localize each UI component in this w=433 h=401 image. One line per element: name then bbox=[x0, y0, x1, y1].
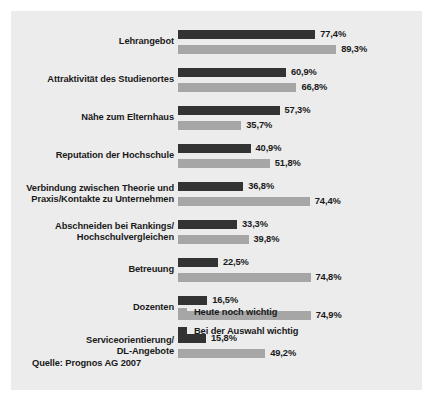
bar-rect bbox=[178, 182, 243, 191]
category-label: Verbindung zwischen Theorie und Praxis/K… bbox=[11, 183, 174, 205]
legend-item[interactable]: Heute noch wichtig bbox=[178, 304, 298, 320]
bar-rect bbox=[178, 45, 336, 54]
bar-pair: 33,3%39,8% bbox=[178, 213, 422, 251]
bar-value-label: 74,9% bbox=[316, 310, 342, 321]
bar-group: Verbindung zwischen Theorie und Praxis/K… bbox=[11, 175, 422, 213]
bar-rect bbox=[178, 144, 251, 153]
bar-pair: 77,4%89,3% bbox=[178, 23, 422, 61]
bar-value-label: 57,3% bbox=[285, 105, 311, 116]
bar-pair: 36,8%74,4% bbox=[178, 175, 422, 213]
chart-source-note: Quelle: Prognos AG 2007 bbox=[32, 358, 141, 368]
bar-value-label: 66,8% bbox=[301, 82, 327, 93]
bar-pair: 22,5%74,8% bbox=[178, 251, 422, 289]
category-label: Attraktivität des Studienortes bbox=[11, 74, 174, 85]
bar-group: Reputation der Hochschule40,9%51,8% bbox=[11, 137, 422, 175]
category-label: Abschneiden bei Rankings/ Hochschulvergl… bbox=[11, 221, 174, 243]
bar-pair: 60,9%66,8% bbox=[178, 61, 422, 99]
legend-item[interactable]: Bei der Auswahl wichtig bbox=[178, 323, 298, 339]
bar-value-label: 49,2% bbox=[270, 348, 296, 359]
bar-value-label: 39,8% bbox=[254, 234, 280, 245]
bar-rect bbox=[178, 258, 218, 267]
bar-value-label: 51,8% bbox=[275, 158, 301, 169]
legend-swatch-icon bbox=[178, 327, 187, 336]
category-label: Dozenten bbox=[11, 302, 174, 313]
bar-value-label: 33,3% bbox=[242, 219, 268, 230]
bar-pair: 40,9%51,8% bbox=[178, 137, 422, 175]
bar-rect bbox=[178, 197, 310, 206]
bar-value-label: 77,4% bbox=[320, 29, 346, 40]
category-label: Betreuung bbox=[11, 264, 174, 275]
bar-group: Lehrangebot77,4%89,3% bbox=[11, 23, 422, 61]
bar-value-label: 74,4% bbox=[315, 196, 341, 207]
bar-rect bbox=[178, 106, 280, 115]
chart-legend: Heute noch wichtigBei der Auswahl wichti… bbox=[178, 304, 298, 342]
bar-rect bbox=[178, 121, 241, 130]
bar-group: Nähe zum Elternhaus57,3%35,7% bbox=[11, 99, 422, 137]
category-label: Lehrangebot bbox=[11, 36, 174, 47]
chart-panel: Lehrangebot77,4%89,3%Attraktivität des S… bbox=[11, 11, 422, 390]
bar-pair: 57,3%35,7% bbox=[178, 99, 422, 137]
bar-value-label: 35,7% bbox=[246, 120, 272, 131]
bar-rect bbox=[178, 220, 237, 229]
bar-group: Attraktivität des Studienortes60,9%66,8% bbox=[11, 61, 422, 99]
bar-rect bbox=[178, 235, 249, 244]
bar-value-label: 89,3% bbox=[341, 44, 367, 55]
bar-rect bbox=[178, 159, 270, 168]
legend-label: Bei der Auswahl wichtig bbox=[194, 326, 298, 336]
bar-group: Betreuung22,5%74,8% bbox=[11, 251, 422, 289]
bar-value-label: 74,8% bbox=[316, 272, 342, 283]
category-label: Serviceorientierung/ DL-Angebote bbox=[11, 335, 174, 357]
bar-rect bbox=[178, 83, 296, 92]
bar-rect bbox=[178, 273, 311, 282]
bar-value-label: 22,5% bbox=[223, 257, 249, 268]
bar-value-label: 40,9% bbox=[256, 143, 282, 154]
category-label: Reputation der Hochschule bbox=[11, 150, 174, 161]
bar-value-label: 60,9% bbox=[291, 67, 317, 78]
bar-value-label: 36,8% bbox=[248, 181, 274, 192]
legend-swatch-icon bbox=[178, 308, 187, 317]
bar-rect bbox=[178, 349, 265, 358]
category-label: Nähe zum Elternhaus bbox=[11, 112, 174, 123]
bar-group: Abschneiden bei Rankings/ Hochschulvergl… bbox=[11, 213, 422, 251]
bar-rect bbox=[178, 30, 315, 39]
bar-rect bbox=[178, 68, 286, 77]
legend-label: Heute noch wichtig bbox=[194, 307, 277, 317]
